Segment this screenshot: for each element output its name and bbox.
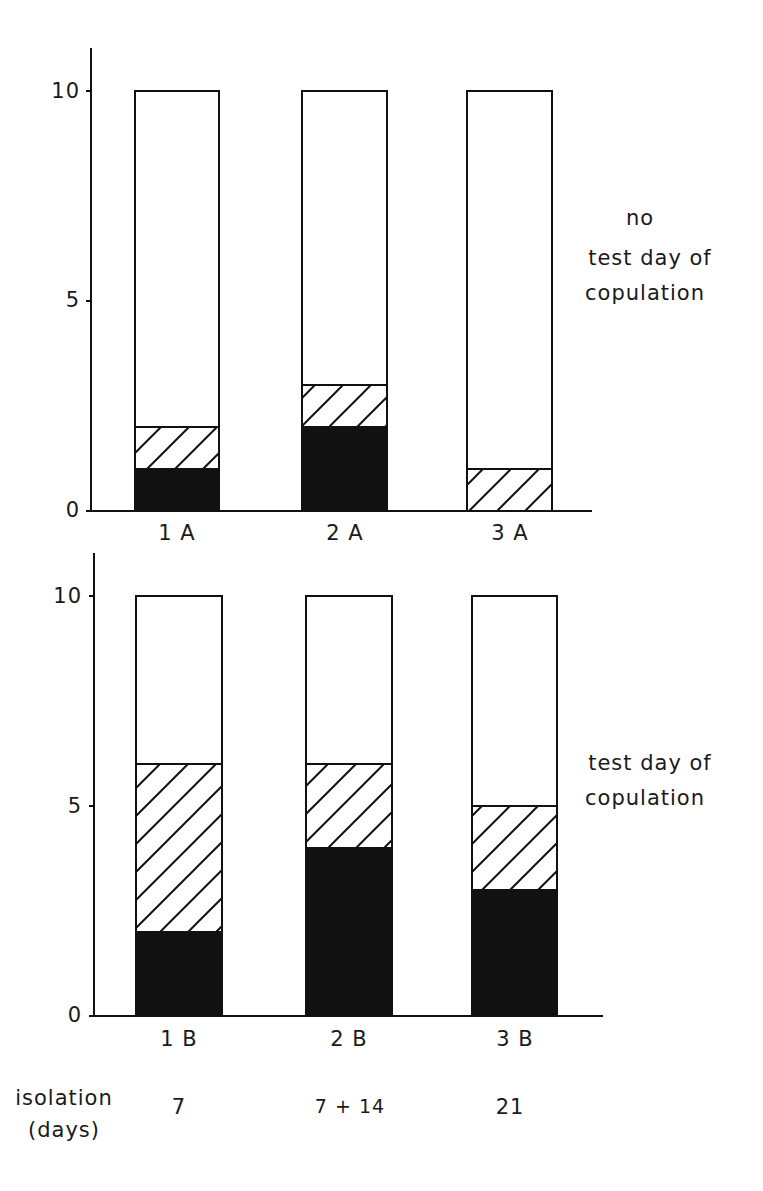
bottom-category-label-3b: 3 B: [470, 1029, 560, 1050]
solid-segment: [472, 890, 557, 1016]
isolation-unit-label: (days): [4, 1120, 124, 1141]
open-segment: [467, 91, 552, 511]
solid-segment: [306, 848, 392, 1016]
hatched-segment: [135, 427, 219, 469]
stacked-bar-2a: [302, 91, 387, 511]
bottom-ytick-label-10: 10: [42, 586, 82, 607]
top-category-label-2a: 2 A: [300, 523, 390, 544]
isolation-value-2: 7 + 14: [290, 1097, 410, 1116]
hatched-segment: [467, 469, 552, 511]
stacked-bar-3a: [467, 91, 552, 511]
solid-segment: [135, 469, 219, 511]
bottom-chart-panel: [89, 553, 603, 1016]
bottom-category-label-1b: 1 B: [134, 1029, 224, 1050]
hatched-segment: [136, 764, 222, 932]
bottom-side-label-line1: test day of: [565, 748, 735, 779]
isolation-value-3: 21: [465, 1097, 555, 1118]
solid-segment: [302, 427, 387, 511]
top-ytick-label-5: 5: [40, 290, 80, 311]
stacked-bar-1b: [136, 596, 222, 1016]
isolation-value-1: 7: [134, 1097, 224, 1118]
hatched-segment: [302, 385, 387, 427]
top-side-label-line1: no: [620, 203, 660, 234]
isolation-label: isolation: [4, 1088, 124, 1109]
top-side-label-line2: test day of: [565, 243, 735, 274]
stacked-bar-charts: [0, 0, 763, 1191]
top-chart-panel: [86, 48, 592, 511]
top-ytick-label-10: 10: [40, 81, 80, 102]
top-category-label-3a: 3 A: [465, 523, 555, 544]
bottom-side-label-line2: copulation: [565, 783, 725, 814]
bottom-ytick-label-5: 5: [42, 796, 82, 817]
hatched-segment: [306, 764, 392, 848]
top-ytick-label-0: 0: [40, 500, 80, 521]
hatched-segment: [472, 806, 557, 890]
stacked-bar-2b: [306, 596, 392, 1016]
top-side-label-line3: copulation: [565, 278, 725, 309]
top-category-label-1a: 1 A: [132, 523, 222, 544]
stacked-bar-3b: [472, 596, 557, 1016]
bottom-ytick-label-0: 0: [42, 1005, 82, 1026]
solid-segment: [136, 932, 222, 1016]
bottom-category-label-2b: 2 B: [304, 1029, 394, 1050]
stacked-bar-1a: [135, 91, 219, 511]
